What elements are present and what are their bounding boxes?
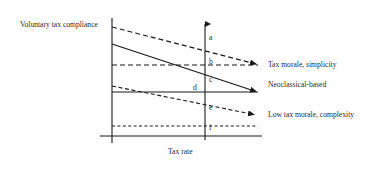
axis-letter-b: b xyxy=(209,58,213,66)
curve-label-tax-morale-simplicity: Tax morale, simplicity xyxy=(268,61,336,69)
axis-letter-a: a xyxy=(209,34,212,42)
curve-low-tax-morale-complexity xyxy=(112,86,254,115)
curve-label-neoclassical-based: Neoclassical-based xyxy=(268,81,326,89)
x-axis-label: Tax rate xyxy=(168,148,193,156)
curve-label-low-tax-morale-complexity: Low tax morale, complexity xyxy=(268,111,354,119)
curve-group xyxy=(112,27,256,115)
axis-group xyxy=(100,18,262,143)
reference-line-group xyxy=(112,65,258,126)
axis-letter-e: e xyxy=(209,104,212,112)
curve-tax-morale-simplicity xyxy=(112,27,256,64)
axis-letter-c: c xyxy=(209,76,212,84)
y-axis-label: Voluntary tax compliance xyxy=(20,21,98,29)
diagram-canvas: Voluntary tax compliance Tax rate a b c … xyxy=(0,0,384,169)
axis-letter-d: d xyxy=(193,84,197,92)
axis-letter-f: f xyxy=(209,124,212,132)
curve-neoclassical-based xyxy=(112,44,256,92)
